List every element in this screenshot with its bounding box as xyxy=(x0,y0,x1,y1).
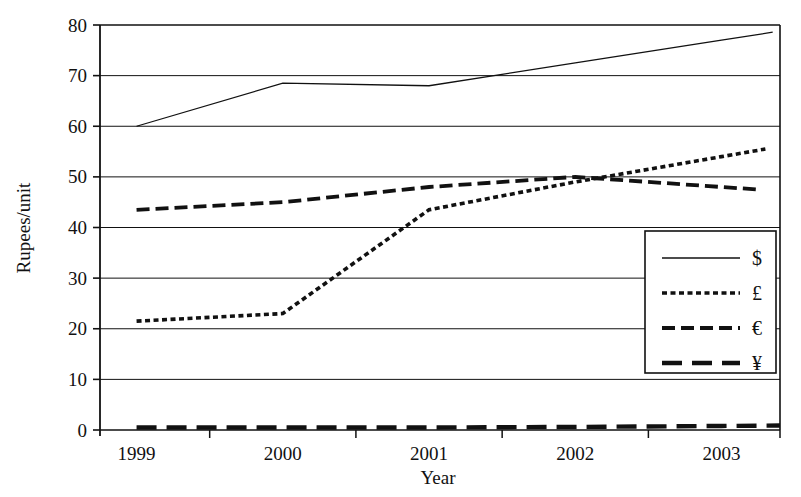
y-tick-label: 40 xyxy=(68,217,87,238)
x-tick-label: 2002 xyxy=(556,443,594,464)
series-line-usd xyxy=(137,32,773,126)
legend-label: € xyxy=(752,317,762,339)
series-line-jpy xyxy=(137,426,780,428)
x-axis-ticks xyxy=(210,430,780,438)
legend-label: $ xyxy=(752,247,762,269)
legend-label: ¥ xyxy=(752,352,762,374)
x-axis-title: Year xyxy=(420,467,456,488)
y-tick-label: 60 xyxy=(68,116,87,137)
y-axis-title: Rupees/unit xyxy=(13,182,34,273)
y-tick-label: 20 xyxy=(68,318,87,339)
y-tick-label: 0 xyxy=(78,420,88,441)
y-tick-label: 80 xyxy=(68,15,87,36)
y-tick-label: 10 xyxy=(68,369,87,390)
x-tick-label: 1999 xyxy=(118,443,156,464)
y-tick-label: 50 xyxy=(68,166,87,187)
y-tick-label: 70 xyxy=(68,65,87,86)
chart-container: 01020304050607080 19992000200120022003 R… xyxy=(0,0,801,497)
y-axis-tick-labels: 01020304050607080 xyxy=(68,15,87,441)
y-axis-ticks xyxy=(93,25,100,430)
x-tick-label: 2003 xyxy=(703,443,741,464)
y-tick-label: 30 xyxy=(68,268,87,289)
legend: $£€¥ xyxy=(645,231,776,374)
x-tick-label: 2001 xyxy=(410,443,448,464)
x-tick-label: 2000 xyxy=(264,443,302,464)
legend-label: £ xyxy=(752,282,762,304)
x-axis-tick-labels: 19992000200120022003 xyxy=(118,443,741,464)
line-chart: 01020304050607080 19992000200120022003 R… xyxy=(0,0,801,497)
